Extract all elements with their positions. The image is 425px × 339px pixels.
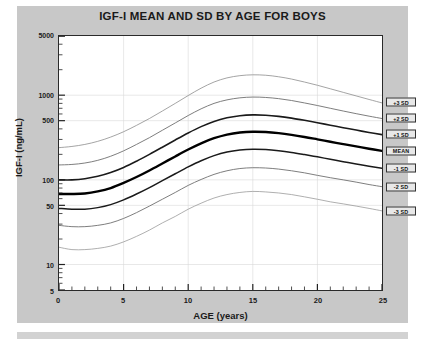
curve-1sd xyxy=(59,115,382,180)
legend-item-1sd[interactable]: +1 SD xyxy=(386,130,416,139)
y-axis-label: IGF-I (ng/mL) xyxy=(13,108,24,188)
x-tick-label: 15 xyxy=(249,296,257,305)
y-tick-label: 5000 xyxy=(38,32,54,39)
x-tick-label: 10 xyxy=(184,296,192,305)
y-axis-tick-labels: 5105010050010005000 xyxy=(20,35,54,291)
plot-svg xyxy=(59,36,382,290)
plot-area xyxy=(58,35,383,291)
legend-item-2sd[interactable]: +2 SD xyxy=(386,114,416,123)
legend-item-3sd[interactable]: +3 SD xyxy=(386,98,416,107)
curve--2sd xyxy=(59,168,382,227)
y-tick-label: 500 xyxy=(42,117,54,124)
x-axis-tick-labels: 0510152025 xyxy=(58,296,383,308)
chart-figure: IGF-I MEAN AND SD BY AGE FOR BOYS 510501… xyxy=(0,0,425,339)
curve--3sd xyxy=(59,191,382,249)
y-tick-label: 1000 xyxy=(38,91,54,98)
axis-tick-marks xyxy=(59,36,382,290)
x-tick-label: 0 xyxy=(56,296,60,305)
x-axis-label: AGE (years) xyxy=(58,310,383,321)
chart-title: IGF-I MEAN AND SD BY AGE FOR BOYS xyxy=(17,10,408,22)
curve-mean xyxy=(59,132,382,194)
legend-item--1sd[interactable]: -1 SD xyxy=(386,164,416,173)
x-tick-label: 20 xyxy=(314,296,322,305)
y-tick-label: 100 xyxy=(42,176,54,183)
data-curves xyxy=(59,75,382,250)
legend: +3 SD+2 SD+1 SDMEAN-1 SD-2 SD-3 SD xyxy=(383,35,423,291)
chart-bottom-band xyxy=(17,332,408,339)
y-tick-label: 5 xyxy=(50,288,54,295)
curve--1sd xyxy=(59,149,382,209)
legend-item--3sd[interactable]: -3 SD xyxy=(386,207,416,216)
legend-item-mean[interactable]: MEAN xyxy=(386,146,416,155)
x-tick-label: 25 xyxy=(379,296,387,305)
legend-item--2sd[interactable]: -2 SD xyxy=(386,182,416,191)
y-tick-label: 10 xyxy=(46,262,54,269)
gridlines xyxy=(59,36,382,290)
x-tick-label: 5 xyxy=(121,296,125,305)
y-tick-label: 50 xyxy=(46,202,54,209)
curve-2sd xyxy=(59,97,382,165)
